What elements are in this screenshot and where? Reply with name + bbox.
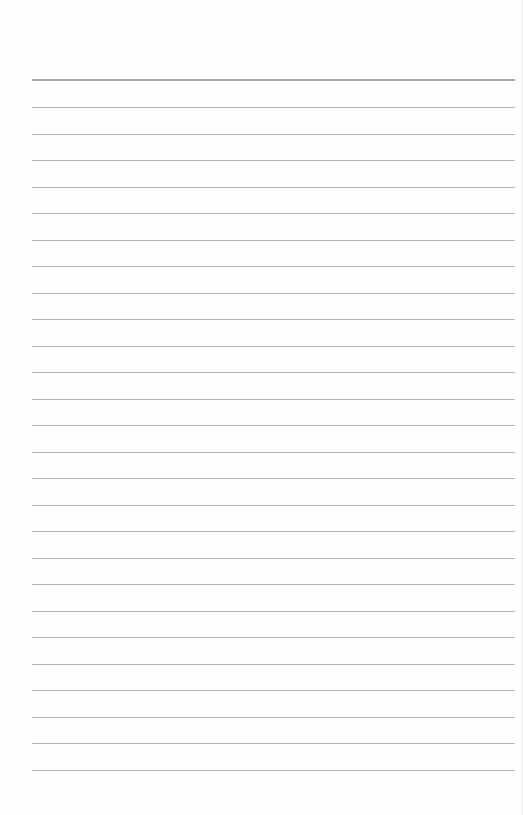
ruled-line (32, 107, 515, 108)
lined-paper-page (0, 0, 523, 815)
ruled-line (32, 770, 515, 771)
ruled-line (32, 240, 515, 241)
ruled-line (32, 558, 515, 559)
ruled-line (32, 266, 515, 267)
ruled-line (32, 717, 515, 718)
ruled-line (32, 505, 515, 506)
ruled-line (32, 425, 515, 426)
ruled-line (32, 134, 515, 135)
header-rule (32, 79, 515, 81)
ruled-line (32, 743, 515, 744)
ruled-line (32, 452, 515, 453)
ruled-line (32, 531, 515, 532)
ruled-line (32, 399, 515, 400)
ruled-line (32, 664, 515, 665)
ruled-line (32, 690, 515, 691)
ruled-line (32, 346, 515, 347)
ruled-line (32, 611, 515, 612)
ruled-line (32, 187, 515, 188)
ruled-line (32, 637, 515, 638)
ruled-line (32, 160, 515, 161)
ruled-line (32, 319, 515, 320)
ruled-line (32, 372, 515, 373)
ruled-line (32, 478, 515, 479)
ruled-line (32, 584, 515, 585)
ruled-line (32, 293, 515, 294)
ruled-line (32, 213, 515, 214)
